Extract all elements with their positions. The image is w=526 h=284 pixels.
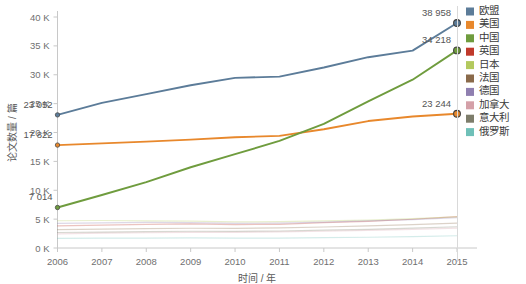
legend-label-6[interactable]: 德国 [479, 84, 499, 96]
x-axis-tick-label: 2010 [224, 256, 245, 267]
legend-swatch-0[interactable] [466, 8, 474, 16]
y-axis-title: 论文数量 / 篇 [6, 103, 18, 161]
series-start-label-2: 7 014 [29, 191, 53, 202]
legend-label-0[interactable]: 欧盟 [479, 4, 500, 16]
legend-swatch-1[interactable] [466, 21, 474, 29]
legend-label-9[interactable]: 俄罗斯 [479, 125, 510, 137]
series-end-label-1: 23 244 [422, 98, 451, 109]
x-axis-title: 时间 / 年 [238, 272, 276, 284]
series-end-label-0: 38 958 [422, 7, 451, 18]
series-end-label-2: 34 218 [422, 34, 451, 45]
legend-label-5[interactable]: 法国 [479, 71, 499, 83]
legend-swatch-7[interactable] [466, 101, 474, 109]
series-start-marker-0 [55, 113, 59, 117]
legend-swatch-3[interactable] [466, 48, 474, 56]
legend-swatch-5[interactable] [466, 75, 474, 83]
legend-label-1[interactable]: 美国 [479, 17, 499, 29]
legend-swatch-9[interactable] [466, 128, 474, 136]
legend-swatch-8[interactable] [466, 115, 474, 123]
x-axis-tick-label: 2011 [269, 256, 289, 267]
legend-label-2[interactable]: 中国 [479, 31, 499, 43]
series-start-label-1: 17 822 [23, 129, 52, 140]
series-start-marker-2 [55, 205, 59, 209]
x-axis-tick-label: 2007 [91, 256, 112, 267]
legend-label-7[interactable]: 加拿大 [479, 98, 510, 110]
y-axis-tick-label: 30 K [30, 69, 50, 80]
legend-swatch-4[interactable] [466, 61, 474, 69]
y-axis-tick-label: 35 K [30, 40, 50, 51]
legend-label-4[interactable]: 日本 [479, 58, 500, 70]
line-chart: 0 K5 K10 K15 K20 K25 K30 K35 K40 K论文数量 /… [0, 0, 526, 284]
y-axis-tick-label: 0 K [35, 243, 50, 254]
legend-swatch-6[interactable] [466, 88, 474, 96]
legend-swatch-2[interactable] [466, 34, 474, 42]
chart-canvas: 0 K5 K10 K15 K20 K25 K30 K35 K40 K论文数量 /… [0, 0, 526, 284]
series-start-label-0: 23 052 [23, 99, 52, 110]
y-axis-tick-label: 15 K [30, 156, 50, 167]
x-axis-tick-label: 2008 [136, 256, 157, 267]
x-axis-tick-label: 2006 [47, 256, 68, 267]
y-axis-tick-label: 40 K [30, 12, 50, 23]
series-start-marker-1 [55, 143, 59, 147]
y-axis-tick-label: 5 K [35, 214, 50, 225]
x-axis-tick-label: 2012 [313, 256, 334, 267]
x-axis-tick-label: 2014 [402, 256, 423, 267]
legend-label-3[interactable]: 英国 [479, 44, 499, 56]
x-axis-tick-label: 2009 [180, 256, 201, 267]
legend-label-8[interactable]: 意大利 [479, 111, 509, 123]
x-axis-tick-label: 2013 [358, 256, 379, 267]
